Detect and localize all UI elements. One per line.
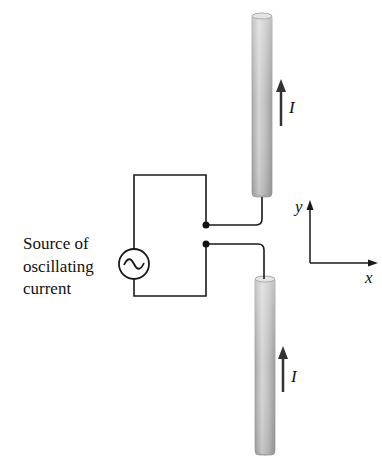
y-axis-label: y	[293, 197, 303, 216]
lower-antenna-rod	[255, 276, 275, 455]
upper-current-label: I	[288, 98, 296, 117]
source-label: Source of oscillating current	[23, 234, 94, 298]
x-axis-label: x	[364, 268, 373, 287]
upper-antenna-rod	[252, 13, 272, 197]
x-axis-arrow-icon	[368, 260, 378, 267]
source-label-line-3: current	[23, 279, 71, 298]
dipole-antenna-diagram: I I Source of oscillating current	[0, 0, 382, 469]
circuit-wires	[134, 175, 264, 296]
coordinate-axes: y x	[293, 197, 378, 287]
ac-source-icon	[119, 249, 149, 279]
source-label-line-2: oscillating	[23, 257, 94, 276]
upper-current-arrow-icon	[276, 79, 286, 126]
y-axis-arrow-icon	[307, 200, 314, 210]
lower-junction-dot	[203, 241, 210, 248]
upper-junction-dot	[203, 222, 210, 229]
lower-current-arrow-icon	[278, 346, 288, 392]
lower-current-label: I	[290, 367, 298, 386]
source-label-line-1: Source of	[23, 234, 89, 253]
